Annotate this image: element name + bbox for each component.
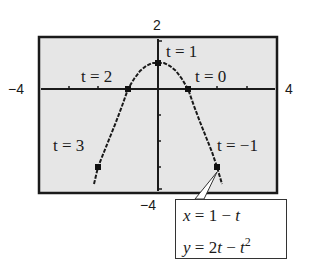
point-t3 <box>95 164 101 170</box>
annotation-t1: t = 1 <box>166 42 197 61</box>
point-t0 <box>185 86 191 92</box>
point-tm1 <box>214 164 220 170</box>
annotation-t0: t = 0 <box>195 67 226 86</box>
point-t2 <box>125 86 131 92</box>
annotation-tm1: t = −1 <box>217 136 258 155</box>
annotation-t3: t = 3 <box>53 136 84 155</box>
equation-x: x = 1 − t <box>183 203 286 229</box>
ymax-label: 2 <box>153 17 161 33</box>
point-t1 <box>155 60 161 66</box>
xmax-label: 4 <box>285 81 293 97</box>
equation-y: y = 2t − t2 <box>183 229 286 261</box>
annotation-t2: t = 2 <box>81 67 112 86</box>
xmin-label: −4 <box>8 81 24 97</box>
ymin-label: −4 <box>140 197 156 213</box>
equation-callout: x = 1 − t y = 2t − t2 <box>175 199 287 259</box>
